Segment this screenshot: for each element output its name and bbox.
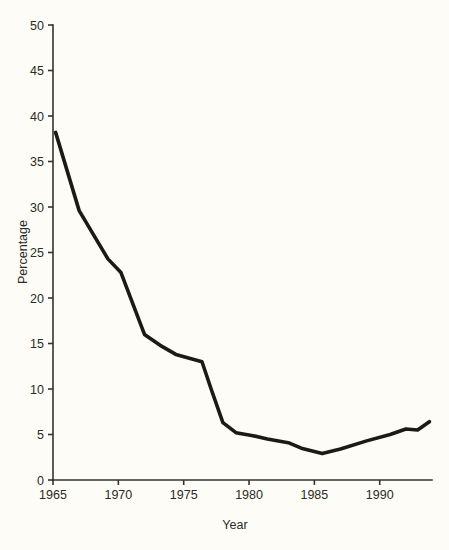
data-line	[56, 132, 430, 453]
y-tick-label: 20	[30, 292, 44, 306]
y-tick-label: 40	[30, 110, 44, 124]
y-tick-label: 25	[30, 246, 44, 260]
y-axis-title: Percentage	[16, 220, 30, 284]
x-axis: 196519701975198019851990	[39, 480, 432, 502]
y-tick-label: 35	[30, 155, 44, 169]
y-tick-label: 30	[30, 201, 44, 215]
y-tick-label: 5	[37, 428, 44, 442]
y-tick-label: 0	[37, 474, 44, 488]
y-tick-label: 10	[30, 383, 44, 397]
x-tick-label: 1980	[235, 488, 263, 502]
y-axis: 05101520253035404550	[30, 19, 53, 488]
x-tick-label: 1975	[170, 488, 198, 502]
x-tick-label: 1985	[300, 488, 328, 502]
x-tick-label: 1990	[366, 488, 394, 502]
data-series-group	[56, 132, 430, 453]
y-tick-label: 45	[30, 64, 44, 78]
y-tick-label: 15	[30, 337, 44, 351]
y-tick-label: 50	[30, 19, 44, 33]
x-tick-label: 1965	[39, 488, 67, 502]
line-chart: 05101520253035404550 1965197019751980198…	[0, 0, 449, 550]
x-tick-label: 1970	[104, 488, 132, 502]
chart-figure: 05101520253035404550 1965197019751980198…	[0, 0, 449, 550]
x-axis-title: Year	[222, 518, 247, 532]
